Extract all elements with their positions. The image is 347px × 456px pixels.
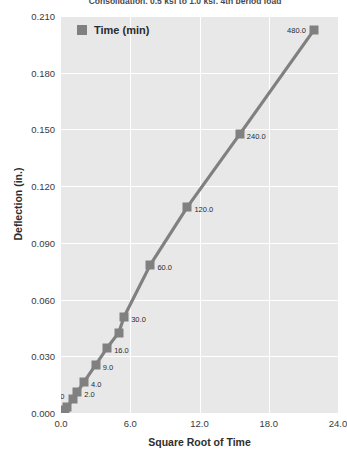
y-axis-label: Deflection (in.) [12,134,24,274]
data-point-marker [91,360,100,369]
y-tick-label: 0.120 [31,181,55,192]
data-point-label: 2.0 [84,390,94,399]
data-point-label: 480.0 [287,26,306,35]
data-point-marker [235,130,244,139]
data-point-label: 1.0 [61,391,65,400]
y-tick-label: 0.030 [31,351,55,362]
x-tick-label: 0.0 [54,418,67,429]
x-tick-label: 12.0 [190,418,209,429]
data-point-label: 16.0 [114,345,129,354]
data-point-marker [80,377,89,386]
legend-label: Time (min) [94,24,149,36]
y-tick-label: 0.060 [31,294,55,305]
x-tick-label: 24.0 [329,418,347,429]
data-point-marker [73,388,82,397]
legend: Time (min) [77,24,149,36]
y-tick-label: 0.150 [31,124,55,135]
data-point-label: 60.0 [157,262,172,271]
data-point-marker [183,202,192,211]
y-tick-label: 0.090 [31,237,55,248]
x-tick-label: 18.0 [260,418,279,429]
data-point-marker [63,403,72,412]
chart-title: Consolidation, 0.5 ksf to 1.0 ksf, 4th p… [60,0,310,4]
data-point-marker [120,312,129,321]
data-point-marker [114,328,123,337]
data-point-marker [146,260,155,269]
y-tick-label: 0.210 [31,11,55,22]
y-tick-label: 0.000 [31,408,55,419]
data-point-label: 30.0 [131,314,146,323]
data-point-label: 9.0 [103,362,113,371]
data-point-label: 0.1 [72,412,82,413]
y-tick-label: 0.180 [31,67,55,78]
data-point-marker [103,343,112,352]
data-point-label: 4.0 [91,379,101,388]
x-tick-label: 6.0 [124,418,137,429]
data-point-marker [309,26,318,35]
x-axis-label: Square Root of Time [61,436,338,448]
series-line [61,16,338,413]
data-point-label: 240.0 [247,132,266,141]
plot-area: 0.10.31.02.04.09.016.030.060.0120.0240.0… [61,16,338,413]
legend-swatch-icon [77,25,87,35]
data-point-label: 120.0 [194,204,213,213]
